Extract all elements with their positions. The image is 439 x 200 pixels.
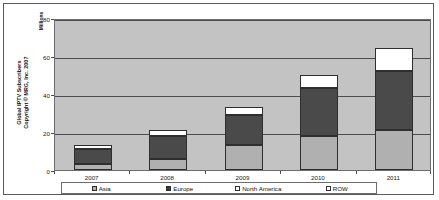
bar-segment-europe[interactable] — [300, 88, 338, 136]
bar-segment-north-america[interactable] — [74, 145, 112, 149]
chart-frame: Global IPTV Subscribers Copyright © MRG,… — [3, 3, 434, 195]
legend-label: North America — [242, 185, 281, 192]
legend-label: Asia — [99, 185, 111, 192]
y-tick-label: 80 — [34, 16, 50, 23]
x-tick-mark — [129, 171, 130, 174]
bar-segment-asia[interactable] — [300, 136, 338, 170]
x-tick-mark — [54, 171, 55, 174]
bar-segment-north-america[interactable] — [300, 75, 338, 88]
legend-label: ROW — [333, 185, 348, 192]
legend-entry[interactable]: ROW — [298, 185, 377, 192]
bar-segment-asia[interactable] — [74, 164, 112, 170]
bar-segment-asia[interactable] — [149, 159, 187, 170]
x-tick-mark — [280, 171, 281, 174]
bar-segment-europe[interactable] — [225, 115, 263, 145]
x-tick-mark — [430, 171, 431, 174]
gridline — [55, 96, 430, 97]
x-tick-label: 2011 — [373, 174, 413, 181]
x-tick-mark — [205, 171, 206, 174]
bar-segment-asia[interactable] — [375, 130, 413, 170]
gridline — [55, 20, 430, 21]
y-tick-label: 60 — [34, 54, 50, 61]
x-tick-label: 2008 — [147, 174, 187, 181]
x-tick-mark — [356, 171, 357, 174]
bar-segment-europe[interactable] — [74, 149, 112, 164]
legend-entry[interactable]: North America — [219, 185, 298, 192]
y-tick-label: 0 — [34, 168, 50, 175]
gridline — [55, 58, 430, 59]
bar-segment-north-america[interactable] — [149, 130, 187, 136]
y-tick-label: 40 — [34, 92, 50, 99]
legend-entry[interactable]: Europe — [141, 185, 220, 192]
x-tick-label: 2010 — [298, 174, 338, 181]
y-axis-title: Global IPTV Subscribers Copyright © MRG,… — [16, 33, 29, 153]
plot-area — [54, 19, 431, 171]
bar-segment-asia[interactable] — [225, 145, 263, 170]
x-tick-label: 2007 — [72, 174, 112, 181]
legend-swatch-icon — [166, 186, 171, 191]
legend-swatch-icon — [235, 186, 240, 191]
y-axis-ticks: 020406080 — [30, 19, 50, 171]
legend-swatch-icon — [92, 186, 97, 191]
legend-swatch-icon — [326, 186, 331, 191]
bar-segment-north-america[interactable] — [375, 48, 413, 71]
bar-segment-europe[interactable] — [149, 136, 187, 159]
legend-entry[interactable]: Asia — [62, 185, 141, 192]
bar-segment-europe[interactable] — [375, 71, 413, 130]
chart-legend: AsiaEuropeNorth AmericaROW — [61, 182, 377, 194]
bar-segment-north-america[interactable] — [225, 107, 263, 115]
legend-label: Europe — [173, 185, 193, 192]
x-tick-label: 2009 — [223, 174, 263, 181]
plot-inner — [55, 20, 430, 170]
y-tick-label: 20 — [34, 130, 50, 137]
